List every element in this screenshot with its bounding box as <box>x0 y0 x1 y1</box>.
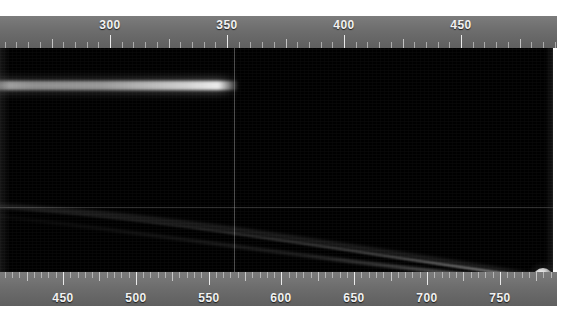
ruler-tick-minor <box>522 272 523 278</box>
ruler-tick-minor <box>179 272 180 278</box>
ruler-tick-minor <box>529 272 530 278</box>
ruler-tick-major <box>136 272 137 285</box>
ruler-tick-minor <box>369 272 370 278</box>
top-ruler-label-300: 300 <box>99 18 121 32</box>
ruler-tick-major <box>344 35 345 48</box>
ruler-tick-minor <box>143 272 144 278</box>
ruler-tick-mid <box>169 39 170 48</box>
top-ruler-label-350: 350 <box>216 18 238 32</box>
bottom-ruler-label-600: 600 <box>270 291 292 305</box>
ruler-tick-minor <box>5 272 6 278</box>
bottom-ruler-label-750: 750 <box>489 291 511 305</box>
ruler-tick-minor <box>194 272 195 278</box>
ruler-tick-minor <box>376 272 377 278</box>
ruler-tick-minor <box>347 272 348 278</box>
ruler-tick-minor <box>252 272 253 278</box>
ruler-tick-minor <box>114 272 115 278</box>
ruler-tick-mid <box>286 39 287 48</box>
ruler-tick-minor <box>92 272 93 278</box>
image-canvas[interactable] <box>0 48 553 272</box>
ruler-tick-minor <box>340 272 341 278</box>
ruler-tick-minor <box>289 272 290 278</box>
ruler-tick-major <box>281 272 282 285</box>
ruler-tick-minor <box>311 272 312 278</box>
ruler-tick-mid <box>245 272 246 281</box>
ruler-tick-minor <box>449 272 450 278</box>
ruler-tick-minor <box>412 272 413 278</box>
top-ruler-label-400: 400 <box>333 18 355 32</box>
ruler-tick-minor <box>129 272 130 278</box>
ruler-tick-minor <box>442 272 443 278</box>
ruler-tick-minor <box>12 272 13 278</box>
bottom-ruler-label-700: 700 <box>416 291 438 305</box>
ruler-tick-minor <box>187 272 188 278</box>
ruler-tick-minor <box>274 272 275 278</box>
screenshot-root: 300350400450 <box>0 0 585 323</box>
ruler-tick-minor <box>332 272 333 278</box>
ruler-tick-minor <box>107 272 108 278</box>
ruler-tick-minor <box>383 272 384 278</box>
ruler-tick-major <box>209 272 210 285</box>
ruler-tick-minor <box>398 272 399 278</box>
canvas-left-vignette <box>0 48 10 272</box>
ruler-tick-minor <box>405 272 406 278</box>
ruler-tick-minor <box>296 272 297 278</box>
bottom-scale-ruler[interactable]: 450500550600650700750 <box>0 272 557 306</box>
ruler-tick-minor <box>56 272 57 278</box>
ruler-tick-minor <box>325 272 326 278</box>
ruler-tick-minor <box>514 272 515 278</box>
ruler-tick-minor <box>19 272 20 278</box>
ruler-tick-minor <box>434 272 435 278</box>
ruler-tick-minor <box>230 272 231 278</box>
ruler-tick-major <box>461 35 462 48</box>
ruler-tick-minor <box>267 272 268 278</box>
ruler-tick-mid <box>52 39 53 48</box>
ruler-tick-minor <box>260 272 261 278</box>
ruler-tick-major <box>227 35 228 48</box>
ruler-tick-major <box>427 272 428 285</box>
top-ruler-label-450: 450 <box>450 18 472 32</box>
ruler-tick-minor <box>121 272 122 278</box>
ruler-tick-minor <box>493 272 494 278</box>
ruler-tick-minor <box>48 272 49 278</box>
ruler-tick-minor <box>201 272 202 278</box>
ruler-tick-mid <box>536 272 537 281</box>
ruler-tick-minor <box>78 272 79 278</box>
ruler-tick-minor <box>85 272 86 278</box>
ruler-tick-minor <box>478 272 479 278</box>
ruler-tick-minor <box>456 272 457 278</box>
ruler-tick-mid <box>99 272 100 281</box>
ruler-tick-minor <box>216 272 217 278</box>
ruler-tick-major <box>63 272 64 285</box>
top-scale-ruler[interactable]: 300350400450 <box>0 16 557 48</box>
ruler-tick-mid <box>463 272 464 281</box>
ruler-tick-minor <box>420 272 421 278</box>
ruler-tick-mid <box>403 39 404 48</box>
ruler-tick-mid <box>520 39 521 48</box>
bottom-ruler-label-500: 500 <box>125 291 147 305</box>
bottom-ruler-label-450: 450 <box>52 291 74 305</box>
ruler-tick-minor <box>303 272 304 278</box>
ruler-tick-minor <box>34 272 35 278</box>
ruler-tick-minor <box>165 272 166 278</box>
ruler-tick-mid <box>318 272 319 281</box>
canvas-right-vignette <box>545 48 553 272</box>
ruler-tick-minor <box>41 272 42 278</box>
ruler-tick-minor <box>551 272 552 278</box>
ruler-tick-minor <box>70 272 71 278</box>
ruler-tick-mid <box>391 272 392 281</box>
ruler-tick-minor <box>238 272 239 278</box>
ruler-tick-major <box>500 272 501 285</box>
ruler-tick-minor <box>543 272 544 278</box>
ruler-tick-minor <box>555 42 556 48</box>
ruler-tick-minor <box>150 272 151 278</box>
ruler-tick-minor <box>507 272 508 278</box>
curved-arc-trail <box>0 48 553 272</box>
ruler-tick-major <box>110 35 111 48</box>
ruler-tick-mid <box>172 272 173 281</box>
ruler-tick-minor <box>485 272 486 278</box>
ruler-tick-minor <box>158 272 159 278</box>
ruler-tick-minor <box>223 272 224 278</box>
ruler-tick-minor <box>471 272 472 278</box>
bottom-ruler-label-550: 550 <box>198 291 220 305</box>
